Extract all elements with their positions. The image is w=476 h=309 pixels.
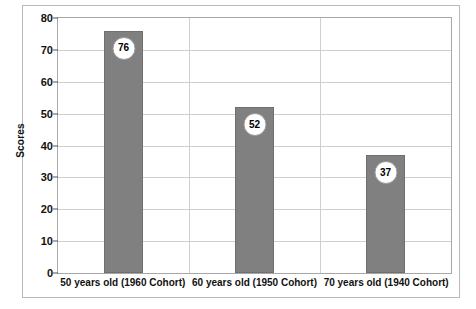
x-axis-label-1: 50 years old (1960 Cohort) bbox=[57, 276, 189, 294]
y-tick-label: 20 bbox=[41, 203, 53, 215]
bar-value-label: 76 bbox=[112, 37, 135, 60]
bar-value-label: 52 bbox=[243, 113, 266, 136]
y-tick-mark bbox=[53, 209, 58, 210]
y-tick-mark bbox=[53, 241, 58, 242]
bar-1[interactable]: 76 bbox=[104, 31, 143, 273]
gridline-vertical bbox=[189, 18, 190, 273]
x-axis-label-2: 60 years old (1950 Cohort) bbox=[189, 276, 321, 294]
y-tick-label: 70 bbox=[41, 44, 53, 56]
y-tick-label: 30 bbox=[41, 171, 53, 183]
y-axis-title: Scores bbox=[15, 101, 26, 181]
plot-area: 80706050403020100765237 bbox=[57, 17, 452, 274]
y-tick-label: 0 bbox=[47, 267, 53, 279]
y-tick-mark bbox=[53, 113, 58, 114]
y-tick-mark bbox=[53, 81, 58, 82]
y-tick-label: 60 bbox=[41, 76, 53, 88]
x-axis-labels: 50 years old (1960 Cohort)60 years old (… bbox=[57, 276, 452, 294]
y-tick-mark bbox=[53, 177, 58, 178]
y-tick-label: 10 bbox=[41, 235, 53, 247]
bar-2[interactable]: 52 bbox=[235, 107, 274, 273]
bar-3[interactable]: 37 bbox=[366, 155, 405, 273]
bar-value-label: 37 bbox=[374, 161, 397, 184]
y-tick-mark bbox=[53, 18, 58, 19]
y-tick-label: 80 bbox=[41, 12, 53, 24]
x-axis-label-3: 70 years old (1940 Cohort) bbox=[320, 276, 452, 294]
y-tick-mark bbox=[53, 49, 58, 50]
chart-root: Scores 80706050403020100765237 50 years … bbox=[0, 0, 476, 309]
y-tick-label: 40 bbox=[41, 140, 53, 152]
y-tick-mark bbox=[53, 145, 58, 146]
gridline-vertical bbox=[320, 18, 321, 273]
y-tick-mark bbox=[53, 273, 58, 274]
y-tick-label: 50 bbox=[41, 108, 53, 120]
